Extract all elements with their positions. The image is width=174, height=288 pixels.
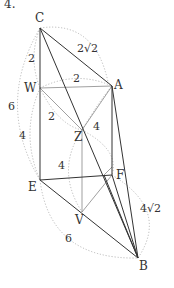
label-C: C bbox=[35, 11, 44, 25]
label-A: A bbox=[113, 78, 123, 92]
measure-CE: 6 bbox=[8, 100, 15, 113]
measure-ZV: 4 bbox=[58, 159, 65, 172]
measure-WE: 4 bbox=[19, 129, 26, 142]
measure-CA: 2√2 bbox=[77, 42, 98, 55]
measure-CW: 2 bbox=[28, 52, 35, 65]
measure-WA: 2 bbox=[73, 72, 80, 85]
measure-ZA: 4 bbox=[93, 120, 100, 133]
label-V: V bbox=[74, 213, 84, 227]
label-E: E bbox=[28, 180, 37, 194]
measure-FB: 4√2 bbox=[140, 202, 161, 215]
geometry-figure: 4. C A W Z E F V B 2√2 2 2 2 4 6 4 4 4√2… bbox=[0, 0, 174, 288]
label-W: W bbox=[24, 81, 37, 95]
arc-WE bbox=[30, 88, 40, 180]
measure-EB: 6 bbox=[65, 232, 72, 245]
thin-lines bbox=[40, 86, 112, 212]
arc-FB bbox=[112, 175, 149, 258]
label-B: B bbox=[139, 259, 148, 273]
corner-fragment: 4. bbox=[4, 0, 15, 11]
arc-CE bbox=[18, 28, 41, 180]
label-F: F bbox=[116, 168, 124, 182]
measure-WZ: 2 bbox=[48, 110, 55, 123]
label-Z: Z bbox=[74, 130, 82, 144]
